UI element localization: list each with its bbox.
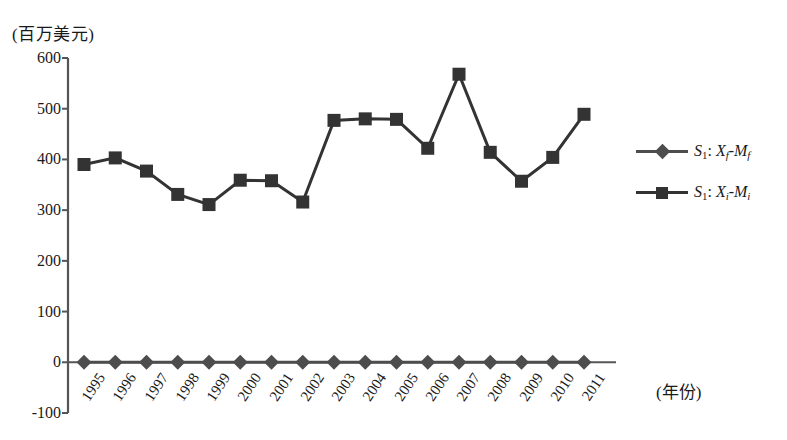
legend-marker <box>654 144 670 160</box>
data-point-marker <box>327 355 342 370</box>
series-2 <box>78 68 591 211</box>
data-point-marker <box>484 146 497 159</box>
chart-container: (百万美元) (年份) 6005004003002001000-100 1995… <box>0 0 787 440</box>
data-point-marker <box>358 355 373 370</box>
y-tick-label: 300 <box>37 201 61 219</box>
y-tick-label: 600 <box>37 49 61 67</box>
data-point-marker <box>420 355 435 370</box>
data-point-marker <box>202 355 217 370</box>
y-tick-label: 400 <box>37 150 61 168</box>
legend-label: S1: Xf-Mf <box>694 142 750 161</box>
data-point-marker <box>578 108 591 121</box>
legend-diamond-icon <box>636 145 688 159</box>
data-point-marker <box>233 355 248 370</box>
data-point-marker <box>234 174 247 187</box>
data-point-marker <box>577 355 592 370</box>
legend-item[interactable]: S1: Xi-Mi <box>636 183 750 202</box>
plot-area: 6005004003002001000-100 1995199619971998… <box>68 58 628 413</box>
data-point-marker <box>515 175 528 188</box>
data-point-marker <box>421 142 434 155</box>
y-tick-label: 0 <box>53 353 61 371</box>
data-point-marker <box>452 355 467 370</box>
data-point-marker <box>546 151 559 164</box>
plot-svg <box>68 58 628 413</box>
data-point-marker <box>109 151 122 164</box>
y-tick-label: 200 <box>37 252 61 270</box>
data-point-marker <box>359 112 372 125</box>
data-point-marker <box>453 68 466 81</box>
data-point-marker <box>139 355 154 370</box>
data-point-marker <box>389 355 404 370</box>
chart-legend: S1: Xf-MfS1: Xi-Mi <box>636 142 750 202</box>
series-line <box>84 74 584 204</box>
y-tick-label: 100 <box>37 303 61 321</box>
data-point-marker <box>78 158 91 171</box>
data-point-marker <box>140 165 153 178</box>
y-tick-label: 500 <box>37 100 61 118</box>
x-axis-unit-label: (年份) <box>656 378 701 403</box>
legend-marker <box>656 187 668 199</box>
data-point-marker <box>108 355 123 370</box>
data-point-marker <box>296 196 309 209</box>
data-point-marker <box>295 355 310 370</box>
data-point-marker <box>483 355 498 370</box>
data-point-marker <box>328 114 341 127</box>
legend-square-icon <box>636 186 688 200</box>
data-point-marker <box>265 174 278 187</box>
series-1 <box>77 355 592 370</box>
legend-label: S1: Xi-Mi <box>694 183 750 202</box>
data-point-marker <box>545 355 560 370</box>
data-point-marker <box>390 113 403 126</box>
y-axis-unit-label: (百万美元) <box>12 20 94 45</box>
data-point-marker <box>170 355 185 370</box>
data-point-marker <box>264 355 279 370</box>
data-point-marker <box>171 188 184 201</box>
data-point-marker <box>77 355 92 370</box>
data-point-marker <box>514 355 529 370</box>
y-tick-label: -100 <box>32 404 61 422</box>
data-point-marker <box>203 198 216 211</box>
legend-item[interactable]: S1: Xf-Mf <box>636 142 750 161</box>
